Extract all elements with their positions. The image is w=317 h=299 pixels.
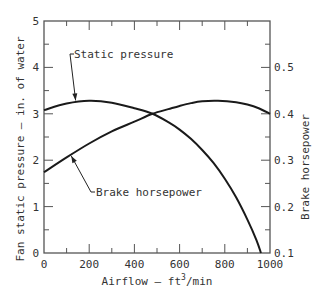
brake-horsepower-arrowhead xyxy=(71,156,77,163)
y-tick-label: 2 xyxy=(32,154,39,167)
static-pressure-label: Static pressure xyxy=(74,48,173,61)
x-tick-label: 600 xyxy=(170,258,190,271)
fan-performance-chart: 020040060080010000123450.10.20.30.40.5 S… xyxy=(0,0,317,299)
y-axis-title: Fan static pressure — in. of water xyxy=(14,36,27,262)
static-pressure-line xyxy=(44,101,261,253)
series-lines xyxy=(44,101,270,253)
y2-tick-label: 0.2 xyxy=(274,201,294,214)
static-pressure-arrowhead xyxy=(72,93,77,100)
x-axis-title-tail: /min xyxy=(186,275,213,288)
y-tick-label: 0 xyxy=(32,247,39,260)
y-tick-label: 5 xyxy=(32,15,39,28)
annotations: Static pressure Brake horsepower xyxy=(70,48,202,199)
x-tick-label: 400 xyxy=(124,258,144,271)
x-axis-title-base: Airflow — ft xyxy=(102,275,181,288)
x-tick-label: 0 xyxy=(41,258,48,271)
x-tick-label: 800 xyxy=(215,258,235,271)
y-tick-label: 4 xyxy=(32,61,39,74)
brake-horsepower-line xyxy=(44,101,270,173)
y2-tick-label: 0.4 xyxy=(274,108,294,121)
y2-tick-label: 0.1 xyxy=(274,247,294,260)
y2-axis-title: Brake horsepower xyxy=(299,114,312,220)
x-axis-title: Airflow — ft3/min xyxy=(102,273,213,288)
y2-tick-label: 0.5 xyxy=(274,61,294,74)
brake-horsepower-label: Brake horsepower xyxy=(96,186,202,199)
y2-tick-label: 0.3 xyxy=(274,154,294,167)
y-tick-label: 1 xyxy=(32,201,39,214)
x-tick-label: 200 xyxy=(79,258,99,271)
y-tick-label: 3 xyxy=(32,108,39,121)
